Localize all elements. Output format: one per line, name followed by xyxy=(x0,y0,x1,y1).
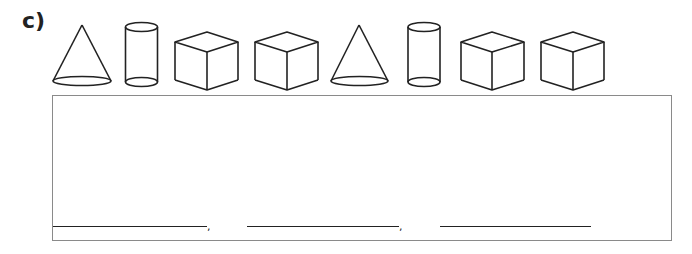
cylinder-icon xyxy=(126,23,158,87)
answer-box: , , xyxy=(52,95,672,241)
cylinder-icon xyxy=(408,23,440,87)
separator-comma: , xyxy=(207,220,211,233)
answer-blank-1[interactable] xyxy=(53,226,207,227)
cube-icon xyxy=(255,32,318,90)
separator-comma: , xyxy=(399,220,403,233)
cube-icon xyxy=(175,32,238,90)
shapes-row xyxy=(0,0,692,95)
answer-blank-3[interactable] xyxy=(440,226,591,227)
cube-icon xyxy=(541,32,604,90)
answer-blank-2[interactable] xyxy=(247,226,399,227)
cube-icon xyxy=(461,32,524,90)
cone-icon xyxy=(331,25,388,86)
cone-icon xyxy=(53,25,111,86)
